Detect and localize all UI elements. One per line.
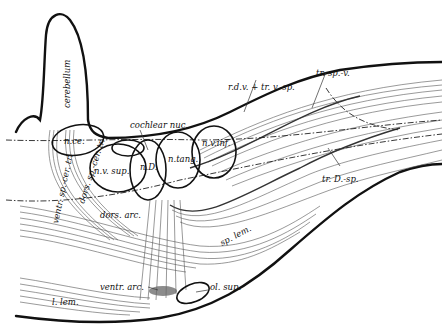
label-cochlear-nuc: cochlear nuc. bbox=[130, 120, 188, 130]
label-n-v-inf: n.v.inf. bbox=[202, 138, 230, 148]
label-n-v-sup: n.v. sup. bbox=[94, 166, 129, 176]
brainstem-diagram: cerebellum cochlear nuc. r.d.v. + tr. v.… bbox=[0, 0, 442, 331]
label-n-tang: n.tang. bbox=[168, 154, 198, 164]
label-rdv-trvsp: r.d.v. + tr. v.-sp. bbox=[228, 82, 295, 92]
label-tr-D-sp: tr. D.-sp. bbox=[322, 174, 359, 184]
dorsal-outline bbox=[16, 14, 442, 138]
superior-olive bbox=[174, 278, 212, 307]
nucleus-cochlear bbox=[112, 140, 144, 156]
label-cerebellum: cerebellum bbox=[62, 60, 72, 108]
label-n-ce: n.ce. bbox=[64, 136, 85, 146]
label-dors-arc: dors. arc. bbox=[100, 210, 141, 220]
label-tr-sp-v: tr. sp.-v. bbox=[316, 68, 350, 78]
label-l-lem: l. lem. bbox=[52, 297, 79, 307]
label-ventr-arc: ventr. arc. bbox=[100, 282, 144, 292]
label-n-D: n.D. bbox=[140, 162, 157, 172]
label-ol-sup: ol. sup. bbox=[210, 282, 241, 292]
ventral-arcuate-nucleus bbox=[149, 286, 177, 296]
